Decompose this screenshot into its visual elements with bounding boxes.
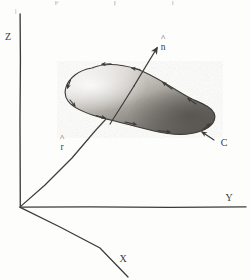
r-hat-label: ^ r <box>60 133 65 152</box>
figure-canvas: Z Y X ^ n ^ r C <box>0 0 250 280</box>
diagram-svg: Z Y X ^ n ^ r C <box>0 0 250 280</box>
scan-artifacts <box>15 1 174 14</box>
x-axis-label: X <box>119 253 127 264</box>
axes-group <box>20 14 246 277</box>
c-leader-line <box>202 132 214 140</box>
surface-group <box>65 64 215 135</box>
z-axis-label: Z <box>5 31 11 42</box>
n-hat-letter: n <box>161 42 166 52</box>
x-axis-line <box>20 207 128 277</box>
y-axis-label: Y <box>225 192 232 203</box>
y-axis-line <box>20 207 246 208</box>
n-hat-label: ^ n <box>161 33 166 52</box>
curve-c-label: C <box>221 137 228 148</box>
c-leader-group <box>202 132 214 140</box>
r-hat-letter: r <box>60 142 64 152</box>
